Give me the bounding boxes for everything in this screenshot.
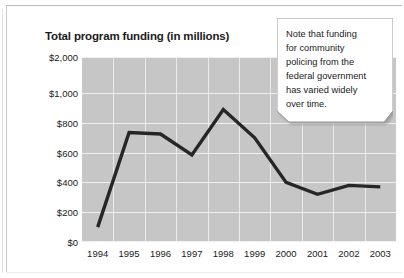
x-axis-tick-label: 2003 bbox=[370, 248, 391, 259]
page-frame-shadow-left bbox=[2, 9, 3, 273]
x-axis-tick-label: 1994 bbox=[87, 248, 108, 259]
callout-line: Note that funding bbox=[286, 27, 386, 41]
x-axis-tick-label: 1998 bbox=[213, 248, 234, 259]
y-axis-tick-label: $200 bbox=[57, 207, 78, 218]
y-axis-tick-label: $600 bbox=[57, 147, 78, 158]
y-axis-tick-label: $800 bbox=[57, 117, 78, 128]
page-frame-left bbox=[6, 5, 7, 273]
annotation-callout: Note that fundingfor communitypolicing f… bbox=[277, 18, 393, 128]
callout-line: over time. bbox=[286, 97, 386, 111]
callout-line: federal government bbox=[286, 69, 386, 83]
callout-line: policing from the bbox=[286, 55, 386, 69]
y-axis-tick-label: $1,000 bbox=[49, 88, 78, 99]
callout-line: has varied widely bbox=[286, 83, 386, 97]
y-axis-tick-label: $400 bbox=[57, 177, 78, 188]
chart-title: Total program funding (in millions) bbox=[45, 30, 229, 42]
page-frame-bottom bbox=[6, 272, 402, 273]
x-axis-tick-label: 1996 bbox=[150, 248, 171, 259]
x-axis-tick-label: 2000 bbox=[276, 248, 297, 259]
x-axis-tick-label: 2002 bbox=[338, 248, 359, 259]
chart-page: Total program funding (in millions) $2,0… bbox=[0, 0, 404, 278]
x-axis-tick-label: 1995 bbox=[119, 248, 140, 259]
y-axis-tick-label: $0 bbox=[67, 237, 78, 248]
x-axis-tick-label: 1999 bbox=[244, 248, 265, 259]
page-frame-top bbox=[6, 5, 402, 6]
x-axis-tick-label: 1997 bbox=[181, 248, 202, 259]
y-axis-tick-label: $2,000 bbox=[49, 52, 78, 63]
callout-line: for community bbox=[286, 41, 386, 55]
x-axis-tick-label: 2001 bbox=[307, 248, 328, 259]
callout-text: Note that fundingfor communitypolicing f… bbox=[286, 27, 386, 112]
